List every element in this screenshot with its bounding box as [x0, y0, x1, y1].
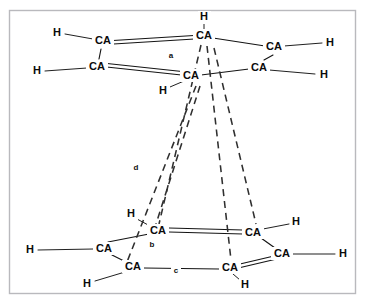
- atom-label-u-h-1: H: [53, 26, 61, 38]
- atom-label-l-h-5: H: [83, 277, 91, 289]
- atom-label-u-ca-3: CA: [266, 40, 282, 52]
- atom-label-l-h-6: H: [26, 243, 34, 255]
- atom-label-u-h-3: H: [326, 36, 334, 48]
- atom-label-l-h-3: H: [339, 247, 347, 259]
- atom-label-u-h-2: H: [200, 10, 208, 22]
- molecular-diagram-figure: CA CA CA CA CA CA H H H H H H: [0, 0, 369, 303]
- distance-label-a: a: [169, 51, 174, 60]
- atom-label-l-h-2: H: [292, 215, 300, 227]
- distance-label-c: c: [174, 266, 179, 275]
- atom-label-l-ca-1: CA: [150, 224, 166, 236]
- atom-label-u-ca-6: CA: [89, 60, 105, 72]
- atom-label-u-ca-1: CA: [95, 34, 111, 46]
- atom-label-u-h-4: H: [320, 68, 328, 80]
- atom-label-l-ca-3: CA: [274, 247, 290, 259]
- distance-label-d: d: [134, 163, 139, 172]
- atom-label-l-h-4: H: [241, 278, 249, 290]
- distance-label-b: b: [150, 240, 155, 249]
- atom-label-u-h-5: H: [159, 84, 167, 96]
- atom-label-l-ca-2: CA: [245, 226, 261, 238]
- figure-frame: [10, 11, 356, 294]
- atom-label-u-ca-5: CA: [183, 69, 199, 81]
- atom-label-u-h-6: H: [33, 64, 41, 76]
- atom-label-l-h-1: H: [127, 207, 135, 219]
- atom-label-l-ca-6: CA: [96, 242, 112, 254]
- atom-label-u-ca-2: CA: [196, 29, 212, 41]
- atom-label-l-ca-4: CA: [222, 261, 238, 273]
- atom-label-l-ca-5: CA: [125, 260, 141, 272]
- diagram-canvas: CA CA CA CA CA CA H H H H H H: [0, 0, 369, 303]
- atom-label-u-ca-4: CA: [251, 61, 267, 73]
